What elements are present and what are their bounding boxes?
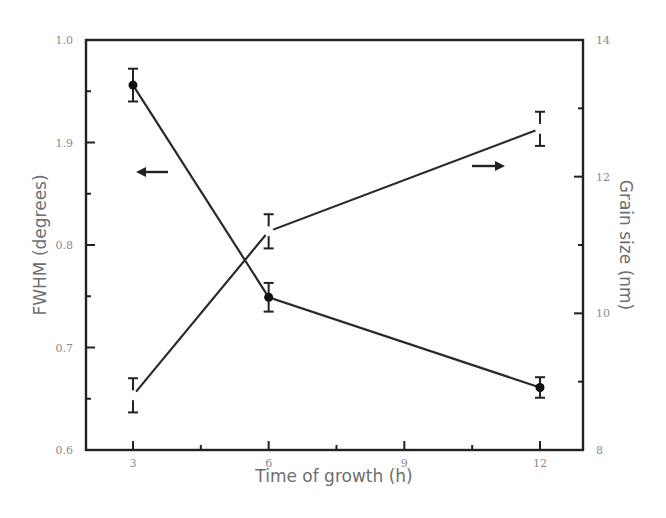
plot-frame xyxy=(86,40,583,450)
data-point xyxy=(535,377,545,398)
y2-axis-title: Grain size (nm) xyxy=(616,180,636,310)
filled-circle-marker xyxy=(536,383,545,392)
x-tick-label: 12 xyxy=(533,457,547,470)
data-lines xyxy=(133,85,540,395)
y-tick-label: 0.8 xyxy=(56,239,74,252)
y2-tick-label: 12 xyxy=(596,171,610,184)
axis-ticks xyxy=(86,91,583,450)
data-point xyxy=(128,378,138,412)
data-point xyxy=(264,283,274,312)
data-markers xyxy=(128,69,545,413)
y-tick-label: 1.0 xyxy=(56,34,74,47)
y-tick-label: 0.7 xyxy=(56,342,74,355)
tick-labels: 369120.60.70.81.91.08101214 xyxy=(56,34,611,470)
right-arrow-icon xyxy=(472,161,505,171)
chart: 369120.60.70.81.91.08101214 Time of grow… xyxy=(0,0,666,518)
data-point xyxy=(264,214,274,248)
y-tick-label: 0.6 xyxy=(56,444,74,457)
x-tick-label: 3 xyxy=(130,457,137,470)
series-line-fwhm xyxy=(133,85,540,387)
open-circle-marker xyxy=(536,124,545,133)
data-point xyxy=(535,112,545,146)
open-circle-marker xyxy=(129,391,138,400)
open-circle-marker xyxy=(264,227,273,236)
data-point xyxy=(128,69,138,102)
y-axis-title: FWHM (degrees) xyxy=(30,174,50,315)
y2-tick-label: 14 xyxy=(596,34,610,47)
series-line-grain-size xyxy=(133,129,540,396)
left-arrow-icon xyxy=(136,167,168,177)
filled-circle-marker xyxy=(129,81,138,90)
x-axis-title: Time of growth (h) xyxy=(254,466,412,486)
filled-circle-marker xyxy=(264,293,273,302)
y-tick-label: 1.9 xyxy=(56,137,74,150)
y2-tick-label: 8 xyxy=(596,444,603,457)
y2-tick-label: 10 xyxy=(596,307,610,320)
